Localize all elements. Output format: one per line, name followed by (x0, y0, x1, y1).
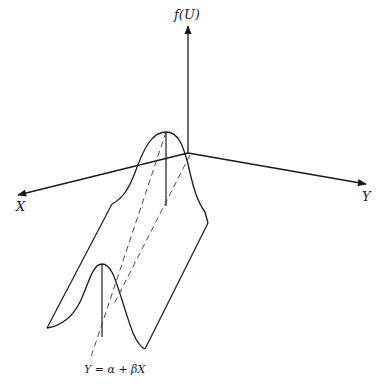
back-density-curve (112, 132, 208, 223)
y-axis (188, 153, 366, 184)
y-axis-label: Y (362, 190, 371, 203)
regression-line (90, 132, 166, 360)
front-density-curve (47, 264, 145, 349)
x-axis (18, 153, 188, 195)
x-axis-label: X (16, 200, 25, 213)
surface-right-edge (145, 223, 208, 349)
regression-diagram (0, 0, 380, 386)
f-u-axis-label: f(U) (174, 8, 200, 21)
regression-equation-label: Y = α + βX (84, 364, 145, 375)
